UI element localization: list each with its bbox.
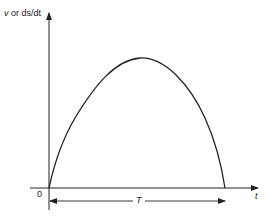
y-axis-label-v: v bbox=[4, 8, 9, 18]
origin-label: 0 bbox=[37, 190, 42, 199]
duration-label: T bbox=[133, 196, 145, 205]
y-axis-label: v or ds/dt bbox=[4, 9, 41, 18]
diagram-canvas bbox=[0, 0, 268, 217]
y-axis-label-or: or bbox=[11, 8, 19, 18]
velocity-time-diagram: v or ds/dt 0 t T bbox=[0, 0, 268, 217]
y-axis-label-derivative: ds/dt bbox=[22, 8, 42, 18]
velocity-curve bbox=[49, 58, 225, 188]
x-axis-label: t bbox=[255, 192, 258, 201]
